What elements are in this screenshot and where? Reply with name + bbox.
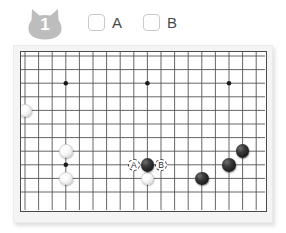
white-stone (59, 144, 73, 158)
black-stone (195, 172, 209, 186)
black-stone (222, 158, 236, 172)
white-stone (20, 104, 32, 118)
checkbox-a[interactable] (88, 14, 105, 31)
go-board-grid (21, 52, 265, 210)
choice-option-b[interactable]: B (143, 14, 177, 31)
move-marker-b[interactable]: B (155, 159, 167, 171)
choice-option-a[interactable]: A (88, 14, 122, 31)
problem-number-badge: 1 (25, 6, 65, 42)
go-problem-screen: 1 A B AB (0, 0, 286, 233)
problem-number: 1 (25, 6, 65, 42)
go-board-frame: AB (13, 45, 273, 223)
move-marker-a[interactable]: A (128, 159, 140, 171)
problem-header: 1 A B (0, 0, 286, 44)
black-stone (141, 158, 155, 172)
checkbox-b[interactable] (143, 14, 160, 31)
choice-label-a: A (112, 14, 122, 31)
white-stone (59, 172, 73, 186)
go-board[interactable]: AB (20, 51, 267, 212)
choice-label-b: B (167, 14, 177, 31)
